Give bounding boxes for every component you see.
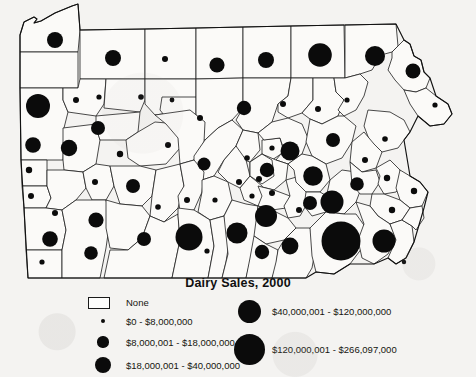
- symbol-cambria: [155, 204, 161, 210]
- legend-label-class-1: $0 - $8,000,000: [126, 316, 193, 327]
- circle-icon-class-5: [234, 334, 265, 365]
- symbol-delaware: [402, 260, 406, 264]
- symbol-dauphin: [296, 207, 302, 213]
- map-legend: Dairy Sales, 2000 None $0 - $8,000,000 $…: [0, 276, 476, 377]
- symbol-fulton: [204, 248, 209, 253]
- symbol-snyder: [256, 176, 262, 182]
- symbol-columbia: [281, 142, 300, 161]
- symbol-allegheny: [52, 210, 58, 216]
- symbol-lancaster: [322, 222, 361, 261]
- symbol-elk: [138, 94, 144, 100]
- county-beaver: [22, 186, 51, 208]
- legend-row-none: None: [86, 294, 240, 311]
- symbol-blair: [184, 197, 190, 203]
- symbol-susquehanna: [365, 46, 385, 66]
- symbol-venango: [73, 97, 79, 103]
- symbol-bucks: [411, 188, 417, 194]
- symbol-clarion: [91, 121, 105, 135]
- legend-label-class-4: $40,000,001 - $120,000,000: [272, 306, 391, 317]
- none-box-icon: [88, 297, 110, 309]
- symbol-franklin: [227, 223, 248, 244]
- symbol-armstrong: [92, 179, 98, 185]
- symbol-northampton: [384, 175, 390, 181]
- legend-label-class-2: $8,000,001 - $18,000,000: [126, 337, 235, 348]
- county-crawford: [20, 52, 78, 88]
- circle-icon-class-1: [101, 319, 106, 324]
- legend-label-class-5: $120,000,001 - $266,097,000: [272, 344, 397, 355]
- county-mckean: [145, 28, 196, 79]
- circle-icon-class-3: [95, 357, 111, 373]
- symbol-monroe: [382, 136, 388, 142]
- symbol-luzerne: [326, 133, 340, 147]
- legend-swatch-class-5: [232, 334, 266, 365]
- symbol-schuylkill: [303, 166, 323, 186]
- symbol-clinton: [197, 115, 203, 121]
- county-armstrong: [83, 164, 114, 200]
- symbol-somerset: [137, 232, 151, 246]
- legend-row-class-3: $18,000,001 - $40,000,000: [86, 353, 240, 377]
- symbol-juniata: [249, 193, 254, 198]
- symbol-chester: [373, 230, 396, 253]
- county-lackawanna: [334, 74, 368, 116]
- symbol-greene: [39, 259, 44, 264]
- symbol-bradford: [308, 43, 332, 67]
- symbol-carbon: [362, 157, 368, 163]
- symbol-butler: [61, 140, 77, 156]
- symbol-jefferson: [117, 151, 123, 157]
- symbol-mckean: [162, 56, 168, 62]
- county-fayette: [62, 200, 110, 278]
- legend-label-class-3: $18,000,001 - $40,000,000: [126, 360, 240, 371]
- symbol-forest: [96, 94, 101, 99]
- symbol-lackawanna: [344, 97, 349, 102]
- circle-icon-class-2: [97, 336, 108, 347]
- symbol-warren: [105, 50, 121, 66]
- legend-row-class-1: $0 - $8,000,000: [86, 311, 240, 331]
- legend-swatch-class-3: [86, 357, 120, 373]
- symbol-sullivan: [280, 101, 286, 107]
- legend-row-class-4: $40,000,001 - $120,000,000: [232, 294, 397, 328]
- symbol-westmoreland: [88, 212, 103, 227]
- county-pike: [404, 88, 452, 126]
- symbol-washington: [42, 231, 58, 247]
- county-tioga: [243, 26, 291, 78]
- map-figure: Dairy Sales, 2000 None $0 - $8,000,000 $…: [0, 0, 476, 377]
- legend-row-class-2: $8,000,001 - $18,000,000: [86, 331, 240, 353]
- symbol-bedford: [176, 224, 203, 251]
- symbol-cumberland: [255, 205, 277, 227]
- circle-icon-class-4: [238, 300, 261, 323]
- county-lawrence: [21, 160, 47, 186]
- symbol-berks: [321, 191, 344, 214]
- symbol-pike: [432, 102, 437, 107]
- symbol-clearfield: [165, 142, 171, 148]
- symbol-montgomery: [389, 207, 395, 213]
- symbol-huntingdon: [212, 197, 217, 202]
- symbol-adams: [255, 245, 269, 259]
- symbol-york: [282, 238, 299, 255]
- symbol-fayette: [84, 246, 98, 260]
- symbol-wyoming: [315, 106, 321, 112]
- symbol-perry: [269, 190, 275, 196]
- symbol-centre: [198, 158, 211, 171]
- legend-left-column: None $0 - $8,000,000 $8,000,001 - $18,00…: [86, 294, 240, 377]
- symbol-beaver: [28, 193, 34, 199]
- symbol-wayne: [406, 64, 421, 79]
- symbol-cameron: [170, 98, 175, 103]
- symbol-tioga: [258, 52, 274, 68]
- symbol-montour: [269, 145, 274, 150]
- legend-row-class-5: $120,000,001 - $266,097,000: [232, 328, 397, 370]
- symbol-lycoming: [237, 101, 251, 115]
- symbol-potter: [209, 57, 224, 72]
- symbol-lehigh: [350, 177, 364, 191]
- symbol-crawford: [26, 94, 50, 118]
- symbol-northumberland: [260, 163, 274, 177]
- county-greene: [26, 250, 62, 278]
- symbol-indiana: [126, 179, 140, 193]
- symbol-union: [244, 155, 250, 161]
- legend-swatch-class-4: [232, 300, 266, 323]
- symbol-erie: [47, 32, 63, 48]
- legend-label-none: None: [126, 297, 149, 308]
- symbol-mifflin: [236, 179, 242, 185]
- legend-right-column: $40,000,001 - $120,000,000 $120,000,001 …: [232, 294, 397, 370]
- map-title: Dairy Sales, 2000: [0, 276, 476, 290]
- symbol-mercer: [25, 137, 41, 153]
